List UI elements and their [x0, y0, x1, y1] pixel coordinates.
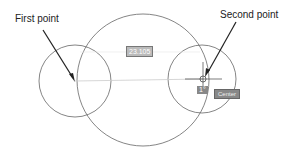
angle-input[interactable]: 1°: [197, 86, 208, 94]
cad-drawing-canvas[interactable]: First point Second point 23.105 1° Cente…: [0, 0, 299, 154]
dimension-input[interactable]: 23.105: [126, 46, 153, 57]
second-point-leader: [208, 22, 236, 72]
first-point-leader: [43, 30, 73, 78]
second-point-label: Second point: [220, 9, 278, 20]
center-snap-tooltip: Center: [214, 89, 240, 99]
first-point-arrowhead: [69, 73, 75, 82]
first-point-label: First point: [15, 13, 59, 24]
rubber-band-line: [75, 79, 203, 81]
